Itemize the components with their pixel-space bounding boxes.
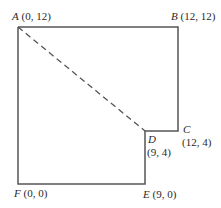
label-b: B (12, 12): [171, 10, 216, 23]
label-a: A (0, 12): [11, 10, 51, 23]
polygon-outline: [18, 27, 178, 184]
label-f: F (0, 0): [13, 187, 48, 200]
dashed-segment-ad: [18, 27, 145, 131]
label-d-letter: D: [147, 133, 156, 145]
label-d-coord: (9, 4): [147, 146, 171, 159]
label-e: E (9, 0): [142, 188, 177, 201]
label-c-coord: (12, 4): [182, 136, 212, 149]
geometry-diagram: A (0, 12) B (12, 12) C (12, 4) D (9, 4) …: [0, 0, 221, 208]
label-c-letter: C: [183, 123, 191, 135]
